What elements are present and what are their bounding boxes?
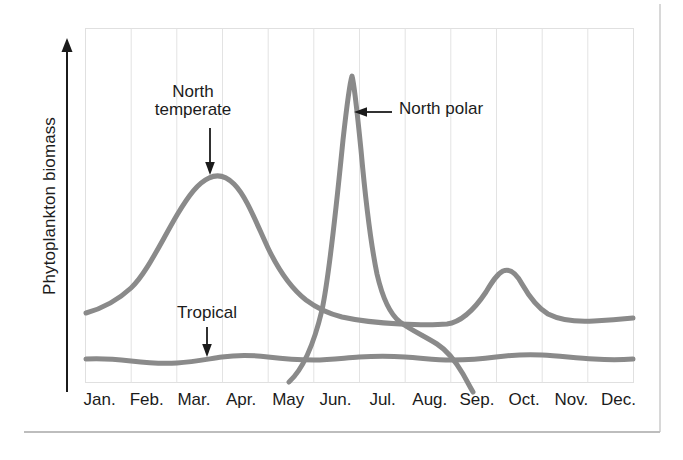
figure-card: Phytoplankton biomass North temperate No… — [0, 0, 683, 460]
x-tick-oct: Oct. — [501, 390, 548, 410]
x-tick-jan: Jan. — [76, 390, 123, 410]
x-tick-jun: Jun. — [312, 390, 359, 410]
x-tick-sep: Sep. — [453, 390, 500, 410]
x-tick-dec: Dec. — [595, 390, 642, 410]
series-label-north-temperate-line1: North — [132, 83, 254, 101]
x-tick-apr: Apr. — [218, 390, 265, 410]
series-label-north-polar: North polar — [399, 100, 483, 118]
y-axis-title: Phytoplankton biomass — [40, 56, 60, 356]
y-axis-arrow — [62, 38, 73, 392]
series-label-north-temperate: North temperate — [132, 83, 254, 120]
x-tick-nov: Nov. — [548, 390, 595, 410]
x-axis-tick-labels: Jan. Feb. Mar. Apr. May Jun. Jul. Aug. S… — [76, 390, 642, 410]
x-tick-jul: Jul. — [359, 390, 406, 410]
x-tick-may: May — [265, 390, 312, 410]
x-tick-mar: Mar. — [170, 390, 217, 410]
series-label-tropical: Tropical — [159, 304, 255, 322]
x-tick-feb: Feb. — [123, 390, 170, 410]
x-tick-aug: Aug. — [406, 390, 453, 410]
series-label-north-temperate-line2: temperate — [132, 101, 254, 119]
